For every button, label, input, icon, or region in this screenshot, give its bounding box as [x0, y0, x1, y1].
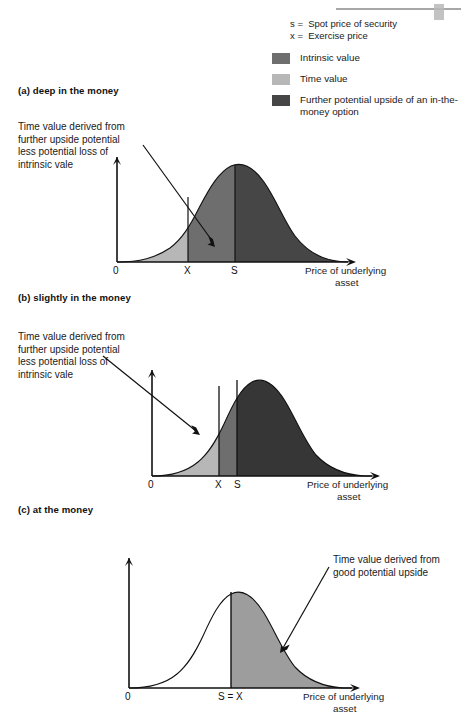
- panel-c-regions: [231, 575, 381, 693]
- panel-c-tick-origin: 0: [125, 691, 131, 702]
- panel-c-axis-label-1: Price of underlying: [303, 691, 384, 703]
- panel-c-leader-line: [283, 567, 329, 648]
- panel-c-axis-label-2: asset: [333, 703, 356, 715]
- panel-c-plot: [0, 0, 461, 717]
- panel-c-tick-sx: S = X: [218, 691, 243, 702]
- region-time-value: [231, 575, 381, 693]
- panel-c: (c) at the money Time value derived from…: [0, 0, 461, 717]
- figure-root: s = Spot price of security x = Exercise …: [0, 0, 461, 717]
